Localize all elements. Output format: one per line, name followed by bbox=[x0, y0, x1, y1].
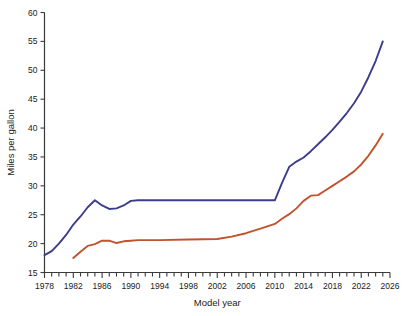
y-tick-label: 15 bbox=[28, 268, 38, 278]
axis-labels: Miles per gallonModel year bbox=[5, 109, 241, 307]
y-tick-label: 25 bbox=[28, 210, 38, 220]
x-tick-label: 1986 bbox=[93, 281, 112, 291]
y-tick-label: 20 bbox=[28, 239, 38, 249]
x-tick-label: 2018 bbox=[323, 281, 342, 291]
y-tick-label: 50 bbox=[28, 65, 38, 75]
series-line-cars bbox=[45, 41, 383, 255]
y-tick-label: 30 bbox=[28, 181, 38, 191]
x-tick-label: 1982 bbox=[64, 281, 83, 291]
axis-lines bbox=[45, 13, 391, 273]
y-tick-label: 60 bbox=[28, 8, 38, 18]
y-tick-label: 55 bbox=[28, 36, 38, 46]
x-tick-label: 1978 bbox=[35, 281, 54, 291]
x-tick-label: 1998 bbox=[179, 281, 198, 291]
y-tick-label: 40 bbox=[28, 123, 38, 133]
x-tick-label: 2022 bbox=[352, 281, 371, 291]
x-tick-label: 2014 bbox=[294, 281, 313, 291]
mpg-line-chart: 15202530354045505560 1978198219861990199… bbox=[0, 0, 404, 316]
x-tick-label: 2006 bbox=[237, 281, 256, 291]
x-axis-title: Model year bbox=[194, 297, 241, 308]
x-tick-label: 1994 bbox=[150, 281, 169, 291]
x-tick-label: 1990 bbox=[121, 281, 140, 291]
y-axis-ticks: 15202530354045505560 bbox=[28, 8, 44, 278]
y-tick-label: 45 bbox=[28, 94, 38, 104]
x-tick-label: 2026 bbox=[381, 281, 400, 291]
series-line-trucks bbox=[73, 134, 383, 258]
x-axis-ticks: 1978198219861990199419982002200620102014… bbox=[35, 273, 400, 291]
chart-canvas: 15202530354045505560 1978198219861990199… bbox=[0, 0, 404, 316]
y-axis-title: Miles per gallon bbox=[5, 109, 16, 176]
series-lines bbox=[45, 41, 383, 258]
x-tick-label: 2002 bbox=[208, 281, 227, 291]
y-tick-label: 35 bbox=[28, 152, 38, 162]
x-tick-label: 2010 bbox=[265, 281, 284, 291]
